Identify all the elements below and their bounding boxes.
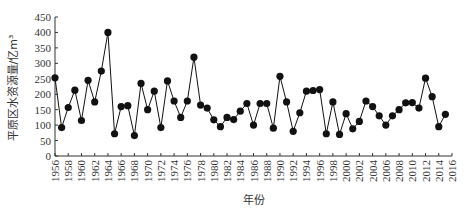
x-tick-label: 1970 — [142, 160, 154, 183]
data-point — [237, 108, 244, 115]
data-point — [51, 74, 58, 81]
x-tick-label: 2002 — [353, 160, 365, 182]
data-point — [356, 118, 363, 125]
x-tick-label: 1962 — [89, 160, 101, 182]
x-tick-label: 1980 — [208, 160, 220, 183]
y-tick-label: 200 — [35, 88, 52, 100]
data-point — [58, 124, 65, 131]
x-tick-label: 1966 — [115, 160, 127, 183]
data-point — [395, 106, 402, 113]
y-tick-label: 350 — [35, 42, 52, 54]
data-point — [402, 99, 409, 106]
data-point — [104, 29, 111, 36]
x-tick-label: 2010 — [406, 160, 418, 183]
data-point — [98, 67, 105, 74]
data-point — [217, 123, 224, 130]
data-point — [409, 99, 416, 106]
data-point — [382, 122, 389, 129]
data-point — [190, 54, 197, 61]
data-point — [309, 87, 316, 94]
data-point — [316, 86, 323, 93]
y-tick-label: 250 — [35, 73, 52, 85]
data-point — [230, 116, 237, 123]
data-point — [118, 103, 125, 110]
data-point — [422, 75, 429, 82]
data-point — [204, 105, 211, 112]
x-tick-label: 1976 — [181, 160, 193, 183]
data-point — [276, 73, 283, 80]
data-point — [323, 130, 330, 137]
x-tick-label: 2000 — [340, 160, 352, 183]
data-point — [257, 100, 264, 107]
data-point — [415, 105, 422, 112]
line-chart: 050100150200250300350400450 195619581960… — [0, 0, 472, 209]
data-point — [137, 80, 144, 87]
data-point — [263, 100, 270, 107]
data-point — [362, 97, 369, 104]
x-axis: 1956195819601962196419661968197019721974… — [49, 153, 458, 182]
y-tick-label: 450 — [35, 11, 52, 23]
x-tick-label: 1996 — [314, 160, 326, 183]
x-axis-title: 年份 — [243, 193, 265, 207]
data-point — [65, 104, 72, 111]
data-point — [329, 98, 336, 105]
data-point — [429, 93, 436, 100]
data-point — [223, 114, 230, 121]
data-point — [283, 98, 290, 105]
x-tick-label: 1998 — [327, 160, 339, 183]
x-tick-label: 1974 — [168, 160, 180, 183]
x-tick-label: 1978 — [195, 160, 207, 183]
data-point — [303, 88, 310, 95]
data-point — [210, 116, 217, 123]
x-tick-label: 1972 — [155, 160, 167, 182]
y-axis: 050100150200250300350400450 — [35, 11, 59, 162]
data-point — [369, 103, 376, 110]
x-tick-label: 2016 — [446, 160, 458, 183]
data-point — [197, 101, 204, 108]
data-point — [296, 109, 303, 116]
x-tick-label: 1988 — [261, 160, 273, 183]
data-point — [290, 128, 297, 135]
data-point — [184, 97, 191, 104]
data-point — [78, 117, 85, 124]
data-point — [435, 123, 442, 130]
data-point — [151, 88, 158, 95]
y-tick-label: 100 — [35, 119, 52, 131]
data-point — [376, 112, 383, 119]
x-tick-label: 2012 — [420, 160, 432, 182]
data-point — [71, 87, 78, 94]
y-axis-title: 平原区水资源量/亿m³ — [6, 35, 20, 142]
data-point — [157, 124, 164, 131]
x-tick-label: 1968 — [128, 160, 140, 183]
x-tick-label: 1958 — [62, 160, 74, 183]
x-tick-label: 1986 — [248, 160, 260, 183]
data-point — [250, 122, 257, 129]
x-tick-label: 1982 — [221, 160, 233, 182]
data-point — [171, 97, 178, 104]
data-point — [144, 106, 151, 113]
x-tick-label: 1994 — [300, 160, 312, 183]
x-tick-label: 1964 — [102, 160, 114, 183]
data-point — [131, 132, 138, 139]
x-tick-label: 1992 — [287, 160, 299, 182]
data-point — [389, 112, 396, 119]
data-point — [243, 100, 250, 107]
data-point — [442, 111, 449, 118]
x-tick-label: 1984 — [234, 160, 246, 183]
x-tick-label: 1956 — [49, 160, 61, 183]
x-tick-label: 2004 — [367, 160, 379, 183]
data-point — [343, 110, 350, 117]
data-point — [111, 130, 118, 137]
data-point — [164, 77, 171, 84]
data-point — [270, 125, 277, 132]
y-tick-label: 150 — [35, 104, 52, 116]
x-tick-label: 2006 — [380, 160, 392, 183]
y-tick-label: 400 — [35, 26, 52, 38]
data-point — [177, 114, 184, 121]
x-tick-label: 1960 — [75, 160, 87, 183]
x-tick-label: 2008 — [393, 160, 405, 183]
data-point — [91, 98, 98, 105]
data-point — [336, 131, 343, 138]
x-tick-label: 1990 — [274, 160, 286, 183]
data-line — [55, 32, 445, 135]
